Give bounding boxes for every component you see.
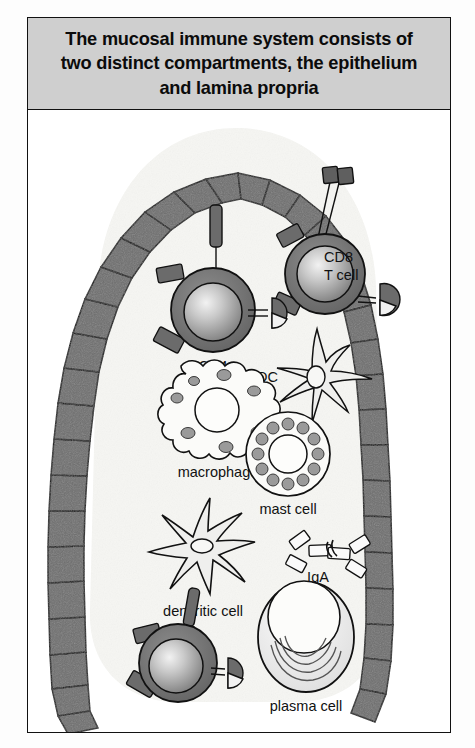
cd8-receptor-tip-left xyxy=(322,166,339,183)
cell-mast-cell xyxy=(246,412,330,496)
dendritic-cell-nucleus xyxy=(191,539,213,553)
dc-epithelial-nucleus xyxy=(307,366,325,388)
cd4-nucleus xyxy=(184,283,242,341)
label-macrophage: macrophage xyxy=(178,464,259,480)
plasma-cell-nucleus xyxy=(268,581,340,653)
figure-panel: The mucosal immune system consists of tw… xyxy=(0,0,475,748)
diagram-canvas: CD8 T cell CD4 T cell xyxy=(28,110,449,732)
label-cd8-line2: T cell xyxy=(324,267,358,283)
label-mast-cell: mast cell xyxy=(259,501,316,517)
label-cd8-line1: CD8 xyxy=(324,249,353,265)
cd8-receptor-tip-right xyxy=(337,167,354,184)
label-plasma-cell: plasma cell xyxy=(270,698,343,714)
cd4-receptor-tip xyxy=(210,205,222,247)
page-title: The mucosal immune system consists of tw… xyxy=(47,27,432,99)
t-cell-lower-nucleus xyxy=(149,639,203,693)
macrophage-nucleus xyxy=(195,388,239,432)
mast-cell-nucleus xyxy=(269,435,307,473)
cell-plasma-cell xyxy=(258,581,354,692)
figure-title-banner: The mucosal immune system consists of tw… xyxy=(27,17,451,110)
label-dendritic-cell: dencritic cell xyxy=(163,603,243,619)
